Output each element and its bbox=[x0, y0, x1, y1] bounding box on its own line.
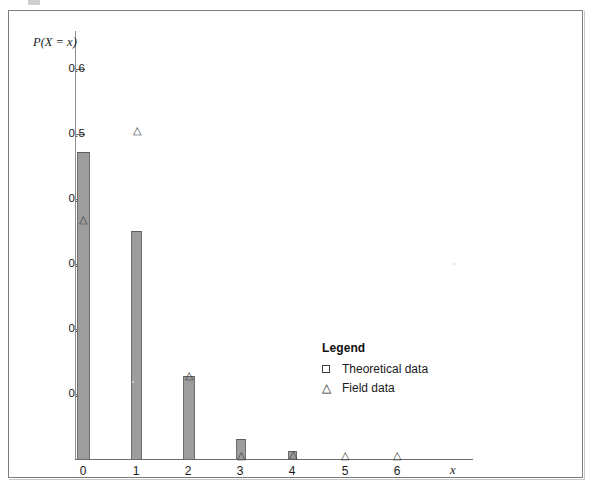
triangle-icon: △ bbox=[288, 450, 298, 459]
x-tick-label-3: 3 bbox=[228, 464, 252, 478]
scan-artifact bbox=[28, 0, 40, 5]
triangle-icon: △ bbox=[340, 451, 350, 460]
x-tick-label-6: 6 bbox=[385, 464, 409, 478]
triangle-icon: △ bbox=[78, 215, 88, 224]
triangle-icon: △ bbox=[392, 451, 402, 460]
y-tick-label-0.6: 0.6 bbox=[45, 62, 85, 74]
legend-item-field-data: △ Field data bbox=[322, 379, 472, 397]
x-tick-label-0: 0 bbox=[71, 464, 95, 478]
scan-speck bbox=[132, 381, 134, 383]
field-marker-x0: △ bbox=[78, 215, 88, 224]
chart-plot-area: P(X = x) x 0.6 0.5 0.4 0.3 0.2 0.1 0 1 2 bbox=[9, 11, 584, 479]
legend-item-label: Field data bbox=[342, 381, 395, 395]
x-axis-line bbox=[75, 459, 473, 460]
field-marker-x5: △ bbox=[340, 451, 350, 460]
x-axis-title: x bbox=[450, 463, 456, 478]
y-tick-label-0.5-wrap: 0.5 bbox=[27, 127, 85, 141]
y-axis-title: P(X = x) bbox=[33, 35, 77, 50]
field-marker-x2: △ bbox=[184, 371, 194, 380]
triangle-icon: △ bbox=[132, 126, 142, 135]
square-icon bbox=[322, 362, 342, 376]
legend-item-label: Theoretical data bbox=[342, 362, 428, 376]
legend: Legend Theoretical data △ Field data bbox=[322, 341, 472, 398]
x-tick-label-4: 4 bbox=[280, 464, 304, 478]
y-tick-label-0.6-wrap: 0.6 bbox=[27, 62, 85, 76]
field-marker-x3: △ bbox=[236, 451, 246, 460]
legend-item-theoretical-data: Theoretical data bbox=[322, 360, 472, 378]
x-tick-label-2: 2 bbox=[176, 464, 200, 478]
legend-title: Legend bbox=[322, 341, 472, 355]
y-tick-label-0.5: 0.5 bbox=[45, 127, 85, 139]
triangle-icon: △ bbox=[236, 451, 246, 460]
scan-speck bbox=[453, 263, 455, 265]
field-marker-x4: △ bbox=[288, 450, 298, 459]
triangle-icon: △ bbox=[184, 371, 194, 380]
triangle-icon: △ bbox=[322, 381, 342, 395]
field-marker-x1: △ bbox=[132, 126, 142, 135]
x-tick-label-1: 1 bbox=[124, 464, 148, 478]
bar-x0 bbox=[77, 152, 90, 459]
x-tick-label-5: 5 bbox=[333, 464, 357, 478]
figure-frame: P(X = x) x 0.6 0.5 0.4 0.3 0.2 0.1 0 1 2 bbox=[8, 10, 583, 478]
bar-x2 bbox=[183, 376, 195, 459]
bar-x1 bbox=[131, 231, 142, 459]
field-marker-x6: △ bbox=[392, 451, 402, 460]
